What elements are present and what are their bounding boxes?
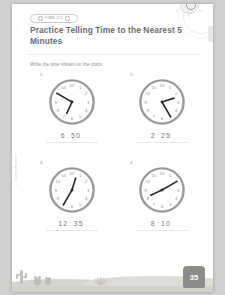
animal-icon bbox=[34, 278, 41, 285]
page-title: Practice Telling Time to the Nearest 5 M… bbox=[30, 25, 202, 46]
cactus-icon bbox=[20, 270, 23, 284]
analog-clock-svg: 121234567891011 bbox=[138, 166, 186, 214]
worksheet-page: TIME (C) Practice Telling Time to the Ne… bbox=[12, 4, 213, 292]
svg-text:12: 12 bbox=[160, 171, 165, 176]
problem-row: 1. 121234567891011 6:50 2. bbox=[26, 72, 206, 160]
svg-text:10: 10 bbox=[145, 91, 150, 96]
answer-minute: 25 bbox=[161, 132, 171, 139]
problem-item: 1. 121234567891011 6:50 bbox=[26, 72, 116, 160]
page-edge-tab bbox=[208, 26, 213, 42]
answer-minute: 50 bbox=[71, 132, 81, 139]
answer-line bbox=[136, 230, 188, 231]
animal-icon-2 bbox=[45, 279, 51, 285]
analog-clock-svg: 121234567891011 bbox=[48, 78, 96, 126]
problem-item: 3. 121234567891011 12:35 bbox=[26, 160, 116, 248]
svg-text:10: 10 bbox=[55, 179, 60, 184]
badge-dot-icon bbox=[38, 16, 43, 21]
problem-number: 3. bbox=[40, 160, 44, 165]
svg-text:12: 12 bbox=[70, 83, 75, 88]
clock-face: 121234567891011 bbox=[48, 78, 96, 130]
answer-text: 12:35 bbox=[26, 220, 116, 227]
clock-face: 121234567891011 bbox=[48, 166, 96, 218]
answer-line bbox=[46, 230, 98, 231]
desert-scene: 35 bbox=[12, 262, 213, 292]
clock-face: 121234567891011 bbox=[138, 166, 186, 218]
svg-text:11: 11 bbox=[152, 85, 157, 90]
answer-text: 6:50 bbox=[26, 132, 116, 139]
analog-clock-svg: 121234567891011 bbox=[138, 78, 186, 126]
problem-grid: 1. 121234567891011 6:50 2. bbox=[26, 72, 206, 248]
answer-text: 2:25 bbox=[116, 132, 206, 139]
svg-text:11: 11 bbox=[62, 85, 67, 90]
answer-minute: 10 bbox=[161, 220, 171, 227]
page-number-badge: 35 bbox=[183, 266, 205, 288]
answer-text: 8:10 bbox=[116, 220, 206, 227]
clock-face: 121234567891011 bbox=[138, 78, 186, 130]
svg-text:12: 12 bbox=[160, 83, 165, 88]
topic-badge-label: TIME (C) bbox=[45, 16, 64, 20]
answer-minute: 35 bbox=[74, 220, 84, 227]
spine-credit: © Teaching Resources bbox=[15, 154, 18, 185]
answer-line bbox=[46, 142, 98, 143]
answer-hour: 12 bbox=[58, 220, 68, 227]
problem-number: 2. bbox=[130, 72, 134, 77]
sun-face bbox=[180, 4, 199, 14]
svg-text:11: 11 bbox=[62, 173, 67, 178]
title-divider bbox=[28, 54, 200, 55]
svg-text:10: 10 bbox=[145, 179, 150, 184]
problem-number: 4. bbox=[130, 160, 134, 165]
svg-text:12: 12 bbox=[70, 171, 75, 176]
bush-icon bbox=[94, 277, 108, 285]
svg-text:11: 11 bbox=[152, 173, 157, 178]
problem-item: 2. 121234567891011 2:25 bbox=[116, 72, 206, 160]
sun-icon bbox=[167, 4, 209, 25]
analog-clock-svg: 121234567891011 bbox=[48, 166, 96, 214]
problem-number: 1. bbox=[40, 72, 44, 77]
badge-dot-icon-2 bbox=[65, 16, 70, 21]
answer-line bbox=[136, 142, 188, 143]
problem-row: 3. 121234567891011 12:35 4. bbox=[26, 160, 206, 248]
instruction-text: Write the time shown on the clock. bbox=[30, 62, 103, 67]
topic-badge: TIME (C) bbox=[30, 14, 78, 23]
problem-item: 4. 121234567891011 8:10 bbox=[116, 160, 206, 248]
